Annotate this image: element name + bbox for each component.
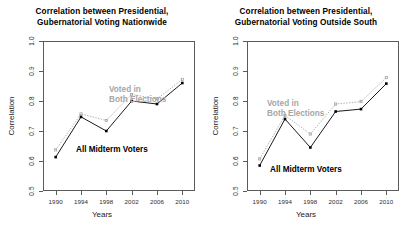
annotation-gray-line2: Both Elections [267, 109, 324, 119]
x-axis-tick-label: 2006 [150, 198, 164, 205]
y-axis-tick-label: 0.5 [28, 186, 35, 195]
y-axis-tick [39, 131, 43, 132]
x-axis-tick-label: 2006 [354, 198, 368, 205]
data-point-marker [80, 113, 82, 115]
data-point-marker [258, 164, 261, 167]
series-layer [43, 41, 195, 191]
y-axis-tick-label: 0.5 [232, 186, 239, 195]
data-point-marker [309, 146, 312, 149]
y-axis-tick [39, 161, 43, 162]
y-axis-tick [243, 71, 247, 72]
x-axis-tick-label: 2002 [329, 198, 343, 205]
annotation-gray-line1: Voted in [109, 85, 166, 95]
data-point-marker [385, 82, 388, 85]
panel-title-nationwide: Correlation between Presidential, Gubern… [0, 6, 204, 28]
panel-outside-south: Correlation between Presidential, Gubern… [204, 0, 408, 227]
y-axis-tick-label: 0.7 [232, 126, 239, 135]
y-axis-tick [39, 101, 43, 102]
x-axis-tick [81, 191, 82, 195]
y-axis-tick-label: 0.8 [28, 96, 35, 105]
annotation-voted-both-elections: Voted in Both Elections [267, 99, 324, 119]
data-point-marker [385, 77, 387, 79]
x-axis-tick-label: 2002 [125, 198, 139, 205]
y-axis-tick [243, 131, 247, 132]
y-axis-tick [39, 41, 43, 42]
annotation-all-midterm-voters: All Midterm Voters [76, 145, 148, 155]
y-axis-title: Correlation [7, 96, 16, 135]
annotation-gray-line2: Both Elections [109, 95, 166, 105]
x-axis-tick [106, 191, 107, 195]
y-axis-tick-label: 0.8 [232, 96, 239, 105]
data-point-marker [334, 110, 337, 113]
x-axis-title: Years [204, 210, 408, 219]
y-axis-tick [243, 41, 247, 42]
data-point-marker [80, 116, 83, 119]
y-axis-tick [39, 71, 43, 72]
y-axis-tick [243, 101, 247, 102]
panel-title-line1: Correlation between Presidential, [204, 6, 408, 17]
x-axis-tick [132, 191, 133, 195]
y-axis-tick-label: 1.0 [28, 36, 35, 45]
data-point-marker [259, 158, 261, 160]
x-axis-tick [386, 191, 387, 195]
panel-title-outside-south: Correlation between Presidential, Gubern… [204, 6, 408, 28]
y-axis-tick [39, 191, 43, 192]
x-axis-tick [336, 191, 337, 195]
panel-title-line2: Gubernatorial Voting Nationwide [0, 17, 204, 28]
x-axis-tick-label: 2010 [379, 198, 393, 205]
x-axis-title: Years [0, 210, 204, 219]
x-axis-tick-label: 1994 [278, 198, 292, 205]
data-point-marker [360, 108, 363, 111]
x-axis-tick [56, 191, 57, 195]
x-axis-tick [157, 191, 158, 195]
x-axis-tick-label: 1990 [253, 198, 267, 205]
y-axis-tick [243, 161, 247, 162]
x-axis-tick-label: 1998 [303, 198, 317, 205]
x-axis-tick-label: 2010 [175, 198, 189, 205]
annotation-voted-both-elections: Voted in Both Elections [109, 85, 166, 105]
data-point-marker [105, 130, 108, 133]
y-axis-title: Correlation [211, 96, 220, 135]
x-axis-tick [182, 191, 183, 195]
x-axis-tick-label: 1990 [49, 198, 63, 205]
y-axis-tick-label: 0.9 [232, 66, 239, 75]
x-axis-tick [260, 191, 261, 195]
y-axis-tick-label: 0.9 [28, 66, 35, 75]
x-axis-tick-label: 1994 [74, 198, 88, 205]
annotation-all-midterm-voters: All Midterm Voters [270, 165, 342, 175]
data-point-marker [54, 156, 57, 159]
panel-title-line1: Correlation between Presidential, [0, 6, 204, 17]
plot-area-outside-south: Voted in Both Elections All Midterm Vote… [247, 41, 399, 191]
panel-title-line2: Gubernatorial Voting Outside South [204, 17, 408, 28]
y-axis-tick [243, 191, 247, 192]
data-point-marker [181, 78, 183, 80]
y-axis-tick-label: 0.7 [28, 126, 35, 135]
y-axis-tick-label: 0.6 [232, 156, 239, 165]
y-axis-tick-label: 1.0 [232, 36, 239, 45]
annotation-gray-line1: Voted in [267, 99, 324, 109]
x-axis-tick-label: 1998 [99, 198, 113, 205]
x-axis-tick [285, 191, 286, 195]
data-point-marker [181, 82, 184, 85]
plot-area-nationwide: Voted in Both Elections All Midterm Vote… [43, 41, 195, 191]
figure-two-panel-correlation: Correlation between Presidential, Gubern… [0, 0, 408, 227]
y-axis-tick-label: 0.6 [28, 156, 35, 165]
panel-nationwide: Correlation between Presidential, Gubern… [0, 0, 204, 227]
x-axis-tick [361, 191, 362, 195]
x-axis-tick [310, 191, 311, 195]
